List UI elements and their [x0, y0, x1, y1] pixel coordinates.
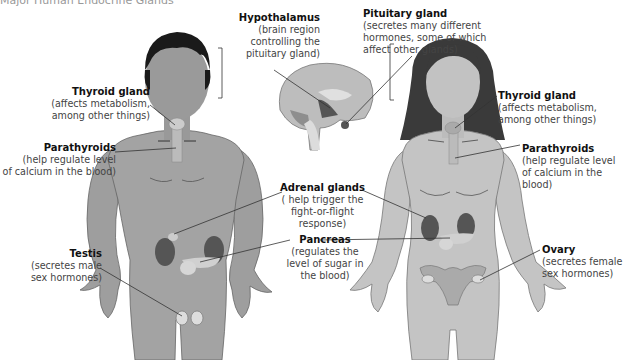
label-parathyroids-female: Parathyroids (help regulate level of cal…: [522, 143, 630, 191]
label-parathyroids-male: Parathyroids (help regulate level of cal…: [0, 142, 116, 178]
label-thyroid-female: Thyroid gland (affects metabolism, among…: [498, 90, 630, 126]
label-hypothalamus: Hypothalamus (brain region controlling t…: [225, 12, 320, 60]
label-title: Hypothalamus: [225, 12, 320, 24]
brain-cross-section: [279, 63, 373, 150]
label-pituitary: Pituitary gland (secretes many different…: [363, 8, 513, 56]
label-ovary: Ovary (secretes female sex hormones): [542, 244, 630, 280]
label-pancreas: Pancreas (regulates the level of sugar i…: [285, 234, 365, 282]
label-thyroid-male: Thyroid gland (affects metabolism, among…: [30, 86, 150, 122]
label-adrenal-glands: Adrenal glands ( help trigger the fight-…: [280, 182, 365, 230]
male-body: [80, 32, 272, 360]
label-testis: Testis (secretes male sex hormones): [20, 248, 102, 284]
